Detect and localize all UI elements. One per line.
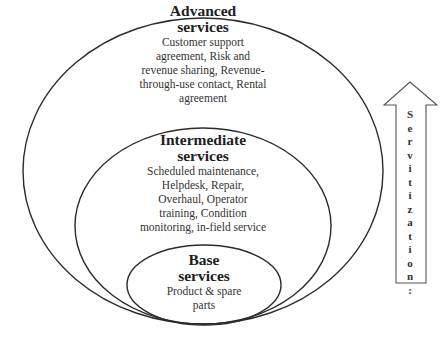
intermediate-desc-3: Overhaul, Operator (103, 192, 303, 206)
intermediate-desc-5: monitoring, in-field service (103, 220, 303, 234)
advanced-desc-4: through-use contact, Rental (103, 77, 303, 91)
servitization-char: v (395, 149, 425, 163)
advanced-title-2: services (103, 19, 303, 35)
base-services-label: Base services Product & spare parts (134, 252, 274, 312)
servitization-char: n (395, 270, 425, 284)
intermediate-desc-4: training, Condition (103, 206, 303, 220)
advanced-title-1: Advanced (103, 3, 303, 19)
servitization-label: S e r v i t i z a t i o n : (395, 108, 425, 297)
advanced-desc-3: revenue sharing, Revenue- (103, 63, 303, 77)
servitization-char: : (395, 284, 425, 298)
advanced-desc-1: Customer support (103, 35, 303, 49)
servitization-char: o (395, 257, 425, 271)
servitization-char: e (395, 122, 425, 136)
intermediate-services-label: Intermediate services Scheduled maintena… (103, 132, 303, 234)
intermediate-desc-1: Scheduled maintenance, (103, 164, 303, 178)
servitization-char: i (395, 189, 425, 203)
servitization-char: z (395, 203, 425, 217)
base-desc-1: Product & spare (134, 284, 274, 298)
advanced-services-label: Advanced services Customer support agree… (103, 3, 303, 105)
base-desc-2: parts (134, 298, 274, 312)
intermediate-title-2: services (103, 148, 303, 164)
base-title-2: services (134, 268, 274, 284)
servitization-char: S (395, 108, 425, 122)
servitization-char: r (395, 135, 425, 149)
base-title-1: Base (134, 252, 274, 268)
intermediate-desc-2: Helpdesk, Repair, (103, 178, 303, 192)
servitization-char: t (395, 176, 425, 190)
advanced-desc-5: agreement (103, 91, 303, 105)
servitization-char: t (395, 230, 425, 244)
intermediate-title-1: Intermediate (103, 132, 303, 148)
servitization-char: i (395, 162, 425, 176)
servitization-char: i (395, 243, 425, 257)
advanced-desc-2: agreement, Risk and (103, 49, 303, 63)
servitization-char: a (395, 216, 425, 230)
